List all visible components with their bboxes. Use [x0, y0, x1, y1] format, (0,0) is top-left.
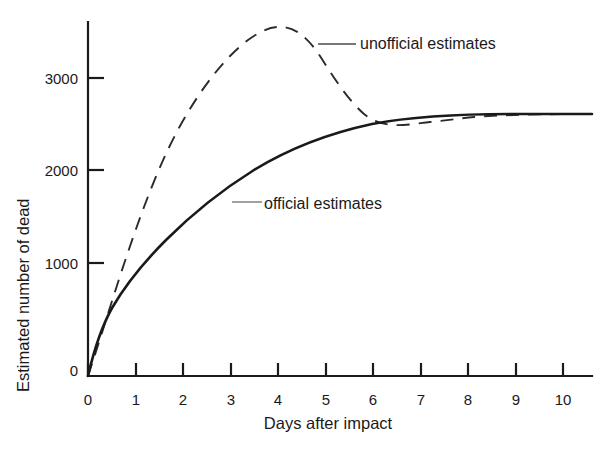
y-tick-label-1000: 1000 [18, 256, 78, 271]
x-tick-marks [88, 363, 563, 376]
annotation-label-official-estimates: official estimates [264, 196, 382, 212]
plot-area [0, 0, 613, 459]
x-tick-label-3: 3 [227, 392, 235, 407]
series-official-estimates [88, 114, 592, 376]
x-tick-label-2: 2 [179, 392, 187, 407]
x-tick-label-0: 0 [84, 392, 92, 407]
x-tick-label-7: 7 [417, 392, 425, 407]
x-tick-label-9: 9 [512, 392, 520, 407]
y-tick-label-2000: 2000 [18, 163, 78, 178]
x-tick-label-1: 1 [132, 392, 140, 407]
y-tick-label-0: 0 [18, 363, 78, 378]
x-tick-label-5: 5 [322, 392, 330, 407]
x-axis-title: Days after impact [88, 414, 568, 433]
x-tick-label-8: 8 [464, 392, 472, 407]
y-tick-marks [88, 78, 104, 263]
x-tick-label-6: 6 [369, 392, 377, 407]
y-axis-title: Estimated number of dead [14, 92, 33, 392]
chart-figure: Estimated number of dead 3000 2000 1000 … [0, 0, 613, 459]
annotation-label-unofficial-estimates: unofficial estimates [360, 36, 496, 52]
x-tick-label-4: 4 [274, 392, 282, 407]
x-tick-label-10: 10 [555, 392, 572, 407]
y-tick-label-3000: 3000 [18, 71, 78, 86]
